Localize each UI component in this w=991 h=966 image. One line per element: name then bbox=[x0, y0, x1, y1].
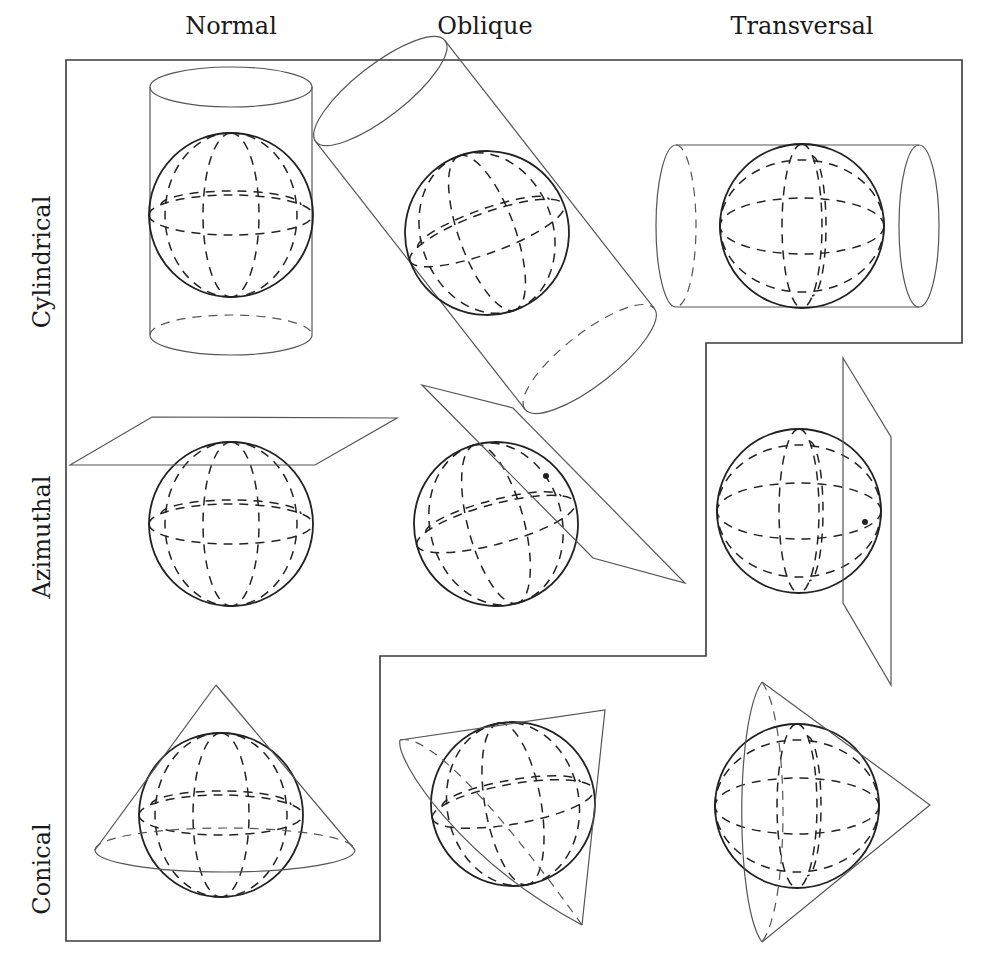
azimuthal-transversal bbox=[717, 358, 891, 685]
azimuthal-normal bbox=[70, 417, 397, 606]
projection-diagram bbox=[0, 0, 991, 966]
conical-oblique bbox=[400, 709, 608, 925]
cylindrical-oblique bbox=[300, 20, 671, 430]
cylindrical-transversal bbox=[656, 144, 939, 308]
azimuthal-oblique bbox=[396, 385, 685, 624]
cylindrical-normal bbox=[149, 67, 313, 355]
frame-outline bbox=[66, 60, 962, 941]
conical-normal bbox=[95, 685, 355, 897]
conical-transversal bbox=[715, 682, 930, 942]
